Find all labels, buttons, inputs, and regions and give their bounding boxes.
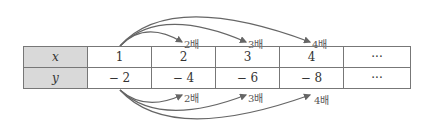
top-arrow-3x: [120, 24, 246, 46]
bottom-arrow-2x: [120, 90, 182, 102]
cell: − 2: [88, 68, 152, 89]
row-header-x: x: [24, 47, 88, 68]
table-row-x: x 1 2 3 4 ···: [24, 47, 411, 68]
cell: − 4: [152, 68, 216, 89]
cell: ···: [344, 68, 411, 89]
cell: 4: [280, 47, 344, 68]
cell: 3: [216, 47, 280, 68]
top-arrow-2x: [120, 32, 182, 46]
xy-table: x 1 2 3 4 ··· y − 2 − 4 − 6 − 8 ···: [23, 46, 411, 89]
bottom-label-3x: 3배: [248, 90, 263, 105]
cell: − 8: [280, 68, 344, 89]
cell: − 6: [216, 68, 280, 89]
table-row-y: y − 2 − 4 − 6 − 8 ···: [24, 68, 411, 89]
bottom-label-2x: 2배: [184, 90, 199, 105]
cell: ···: [344, 47, 411, 68]
cell: 2: [152, 47, 216, 68]
bottom-label-4x: 4배: [314, 92, 329, 107]
cell: 1: [88, 47, 152, 68]
row-header-y: y: [24, 68, 88, 89]
